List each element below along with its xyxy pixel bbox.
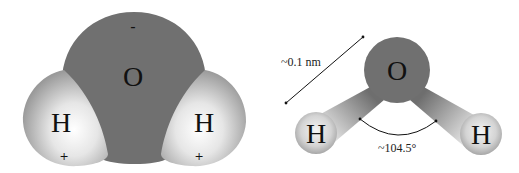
hydrogen-right-charge: + (194, 150, 203, 163)
oxygen-charge: - (130, 17, 135, 36)
hydrogen-right-symbol: H (194, 107, 214, 138)
diagram-canvas: - O H + H + O H H ~0.1 nm ~104.5° (0, 0, 519, 173)
bond-angle-label: ~104.5° (378, 141, 416, 155)
oxygen-ball-symbol: O (387, 55, 407, 86)
oxygen-symbol: O (123, 61, 143, 92)
water-molecule-diagram: - O H + H + O H H ~0.1 nm ~104.5° (0, 0, 519, 173)
hydrogen-left-charge: + (59, 150, 68, 163)
hydrogen-left-ball-symbol: H (306, 118, 326, 149)
bond-length-indicator (286, 37, 363, 103)
bond-length-label: ~0.1 nm (281, 55, 321, 69)
bond-angle-arc (360, 119, 436, 135)
hydrogen-left-symbol: H (51, 107, 71, 138)
ball-and-stick-model: O H H ~0.1 nm ~104.5° (281, 37, 502, 155)
space-filling-model: - O H + H + (23, 12, 246, 166)
hydrogen-right-ball-symbol: H (471, 119, 491, 150)
